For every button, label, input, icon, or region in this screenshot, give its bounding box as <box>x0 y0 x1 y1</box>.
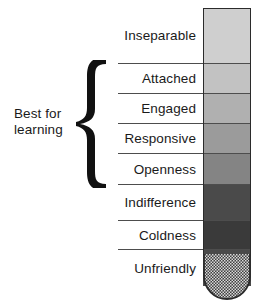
scale-rows: InseparableAttachedEngagedResponsiveOpen… <box>118 8 251 256</box>
scale-row-label: Coldness <box>118 228 203 243</box>
scale-row-swatch <box>203 94 251 123</box>
thermometer-bulb-icon <box>203 254 251 300</box>
scale-row: Coldness <box>118 220 251 249</box>
scale-row: Responsive <box>118 123 251 153</box>
scale-row: Openness <box>118 153 251 184</box>
emotional-scale-thermometer-diagram: Best for learning InseparableAttachedEng… <box>0 0 277 306</box>
scale-row-label: Responsive <box>118 131 203 146</box>
scale-row: Indifference <box>118 184 251 220</box>
scale-row: Attached <box>118 63 251 93</box>
scale-row-swatch <box>203 64 251 93</box>
curly-brace-icon <box>76 60 108 188</box>
best-for-learning-annotation: Best for learning <box>14 106 82 138</box>
scale-row-label: Inseparable <box>118 28 203 43</box>
scale-row-swatch <box>203 185 251 220</box>
scale-row-label: Indifference <box>118 195 203 210</box>
scale-row: Engaged <box>118 93 251 123</box>
scale-row-swatch <box>203 8 251 63</box>
scale-row-label: Openness <box>118 162 203 177</box>
scale-row-label: Unfriendly <box>118 261 203 276</box>
scale-row-swatch <box>203 221 251 249</box>
scale-row-swatch <box>203 124 251 153</box>
annotation-line-1: Best for <box>14 106 82 122</box>
scale-row-label: Engaged <box>118 101 203 116</box>
scale-row-swatch <box>203 154 251 184</box>
scale-row: Inseparable <box>118 8 251 63</box>
scale-row-label: Attached <box>118 71 203 86</box>
annotation-line-2: learning <box>14 122 82 138</box>
